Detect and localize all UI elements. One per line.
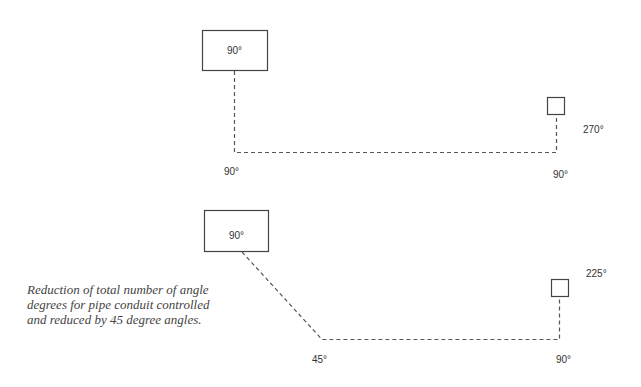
bottom-start-box-label: 90°: [229, 230, 244, 242]
bottom-route: [205, 211, 569, 340]
pipe-conduit-diagram: 90° 270° 90° 90° 90° 225° 45° 90° Reduct…: [0, 0, 641, 387]
top-corner-left-label: 90°: [224, 166, 239, 178]
top-start-box-label: 90°: [227, 45, 242, 57]
bottom-end-angle-label: 225°: [586, 268, 607, 280]
top-end-angle-label: 270°: [583, 124, 604, 136]
bottom-end-box: [552, 280, 569, 297]
bottom-conduit-path: [242, 252, 560, 340]
bottom-corner-left-label: 45°: [312, 354, 327, 366]
top-route: [203, 31, 565, 153]
top-end-box: [548, 98, 565, 115]
diagram-caption: Reduction of total number of angle degre…: [27, 282, 227, 327]
caption-line-1: Reduction of total number of angle: [27, 282, 227, 297]
top-corner-right-label: 90°: [553, 169, 568, 181]
top-conduit-path: [235, 71, 557, 153]
diagram-canvas: [0, 0, 641, 387]
bottom-corner-right-label: 90°: [556, 354, 571, 366]
caption-line-3: and reduced by 45 degree angles.: [27, 312, 227, 327]
caption-line-2: degrees for pipe conduit controlled: [27, 297, 227, 312]
